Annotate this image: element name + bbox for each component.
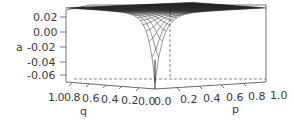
mesh-line — [152, 8, 264, 58]
q-tick-label: 0.0 — [138, 96, 156, 107]
q-axis-label: q — [80, 106, 87, 117]
z-tick-label: -0.02 — [27, 42, 55, 53]
q-tick-label: 1.0 — [48, 92, 64, 103]
z-tick-label: -0.04 — [27, 57, 55, 68]
q-tick-label: 0.6 — [82, 93, 100, 104]
hidden-edges — [74, 14, 266, 79]
mesh-line — [70, 8, 159, 58]
floor-edges — [66, 82, 266, 89]
p-tick-label: 0.2 — [180, 94, 198, 105]
z-axis-label: a — [16, 42, 23, 53]
z-axis-ticks — [60, 17, 66, 75]
p-tick-label: 1.0 — [270, 90, 288, 101]
p-tick-label: 0.0 — [154, 96, 172, 107]
p-tick-label: 0.4 — [203, 93, 221, 104]
surface-mesh — [66, 3, 266, 90]
z-tick-label: -0.06 — [27, 70, 55, 81]
mesh-line — [66, 8, 155, 83]
z-tick-label: 0.00 — [33, 27, 58, 38]
plot-box — [66, 5, 266, 82]
p-tick-label: 0.8 — [248, 91, 266, 102]
p-axis-label: p — [232, 104, 239, 115]
z-tick-label: 0.02 — [33, 12, 58, 23]
q-tick-label: 0.4 — [101, 94, 119, 105]
q-tick-label: 0.2 — [121, 95, 139, 106]
q-tick-label: 0.8 — [64, 92, 80, 103]
p-tick-label: 0.6 — [226, 92, 244, 103]
